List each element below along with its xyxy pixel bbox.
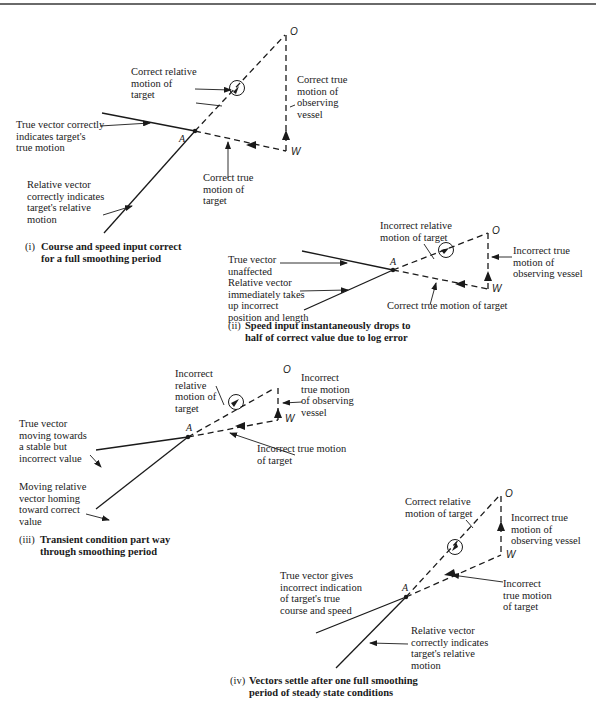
caption-number: (iii): [19, 534, 35, 545]
point-w-label: W: [291, 146, 300, 157]
point-o-label: O: [283, 364, 291, 375]
label-target-true-motion: Correct true motion of target: [387, 300, 508, 312]
label-observer-motion: Incorrect true motion of observing vesse…: [513, 245, 583, 280]
label-observer-motion: Correct true motion of observing vessel: [297, 74, 347, 120]
point-w-label: W: [285, 413, 294, 424]
caption-number: (i): [25, 241, 35, 252]
point-w-label: W: [492, 283, 501, 294]
label-relative-motion: Incorrect relative motion of target: [380, 220, 452, 243]
panel-caption: (i): [25, 241, 35, 253]
panel-caption: (ii): [228, 320, 241, 332]
point-o-label: O: [492, 225, 500, 236]
caption-number: (iv): [230, 675, 245, 686]
label-target-true-motion: Correct true motion of target: [203, 172, 253, 207]
label-relative-vector: Relative vector correctly indicates targ…: [411, 625, 488, 671]
point-a-label: A: [390, 256, 396, 267]
label-target-true-motion: Incorrect true motion of target: [503, 578, 552, 613]
caption-text: Speed input instantaneously drops to hal…: [245, 320, 411, 344]
point-w-label: W: [506, 549, 515, 560]
label-relative-vector: Relative vector immediately takes up inc…: [228, 277, 309, 323]
label-relative-motion: Incorrect relative motion of target: [175, 368, 216, 414]
panel-i-lines: [100, 35, 295, 233]
point-a-label: A: [186, 422, 192, 433]
point-a-label: A: [179, 133, 185, 144]
label-relative-vector: Moving relative vector homing toward cor…: [19, 481, 86, 527]
panel-caption: (iii): [19, 534, 35, 546]
panel-caption: (iv): [230, 675, 245, 687]
point-a-label: A: [402, 582, 408, 593]
label-target-true-motion: Incorrect true motion of target: [257, 443, 346, 466]
label-true-vector: True vector unaffected: [228, 254, 276, 277]
label-relative-motion: Correct relative motion of target: [131, 66, 197, 101]
caption-text: Course and speed input correct for a ful…: [41, 241, 181, 265]
caption-number: (ii): [228, 320, 241, 331]
label-observer-motion: Incorrect true motion of observing vesse…: [301, 372, 354, 418]
panel-ii-lines: [280, 233, 512, 310]
label-true-vector: True vector correctly indicates target's…: [16, 119, 104, 154]
label-true-vector: True vector gives incorrect indication o…: [280, 570, 362, 616]
label-true-vector: True vector moving towards a stable but …: [19, 418, 87, 464]
caption-text: Vectors settle after one full smoothing …: [249, 675, 418, 699]
label-relative-motion: Correct relative motion of target: [405, 496, 472, 519]
point-o-label: O: [290, 26, 298, 37]
label-observer-motion: Incorrect true motion of observing vesse…: [511, 512, 581, 547]
label-relative-vector: Relative vector correctly indicates targ…: [27, 179, 104, 225]
point-o-label: O: [505, 488, 513, 499]
caption-text: Transient condition part way through smo…: [40, 534, 170, 558]
